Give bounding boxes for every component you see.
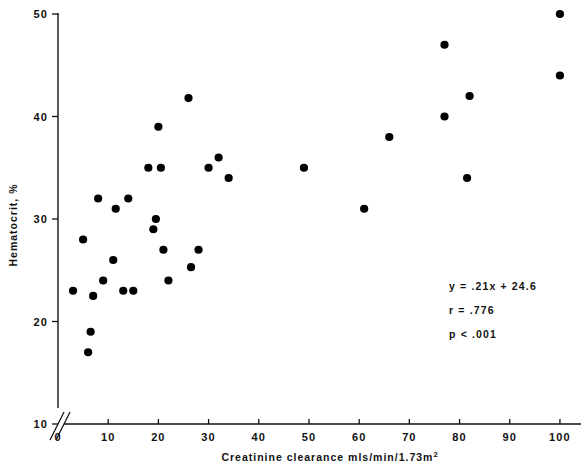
data-point xyxy=(129,287,137,295)
data-point xyxy=(112,205,120,213)
x-axis-title-main: Creatinine clearance mls/min/1.73m xyxy=(221,451,433,463)
y-tick-label: 20 xyxy=(34,316,48,328)
data-point xyxy=(94,194,102,202)
x-tick-group: 0102030405060708090100 xyxy=(54,419,570,443)
x-axis-title: Creatinine clearance mls/min/1.73m2 xyxy=(221,450,438,463)
x-tick-label: 80 xyxy=(452,431,466,443)
x-tick-label: 10 xyxy=(101,431,115,443)
data-point xyxy=(204,164,212,172)
annotation-equation: y = .21x + 24.6 xyxy=(449,280,537,292)
data-point xyxy=(556,10,564,18)
data-point xyxy=(124,194,132,202)
data-point xyxy=(164,276,172,284)
data-point xyxy=(463,174,471,182)
x-tick-label: 60 xyxy=(352,431,366,443)
data-point xyxy=(154,123,162,131)
y-tick-group: 1020304050 xyxy=(34,8,58,430)
data-point xyxy=(79,235,87,243)
data-point xyxy=(149,225,157,233)
y-tick-label: 50 xyxy=(34,8,48,20)
data-point xyxy=(69,287,77,295)
data-point xyxy=(360,205,368,213)
data-point xyxy=(225,174,233,182)
axes-group xyxy=(50,13,581,440)
data-point xyxy=(184,94,192,102)
y-tick-label: 30 xyxy=(34,213,48,225)
data-point xyxy=(385,133,393,141)
y-axis-title: Hematocrit, % xyxy=(7,183,19,266)
annotation-correlation: r = .776 xyxy=(449,304,495,316)
annotation-pvalue: p < .001 xyxy=(449,328,497,340)
scatter-plot-figure: Hematocrit, % 1020304050 010203040506070… xyxy=(0,0,584,467)
data-point xyxy=(440,41,448,49)
x-tick-label: 40 xyxy=(252,431,266,443)
data-point xyxy=(84,348,92,356)
x-tick-label: 70 xyxy=(402,431,416,443)
data-point xyxy=(159,246,167,254)
data-point xyxy=(87,328,95,336)
x-tick-label: 90 xyxy=(503,431,517,443)
y-tick-label: 40 xyxy=(34,111,48,123)
data-point xyxy=(109,256,117,264)
data-point xyxy=(119,287,127,295)
data-point xyxy=(300,164,308,172)
plot-canvas: Hematocrit, % 1020304050 010203040506070… xyxy=(0,0,584,467)
x-tick-label: 0 xyxy=(54,431,61,443)
data-point xyxy=(194,246,202,254)
data-point xyxy=(157,164,165,172)
x-axis-title-superscript: 2 xyxy=(433,450,438,459)
data-point xyxy=(99,276,107,284)
data-point xyxy=(465,92,473,100)
data-point xyxy=(440,112,448,120)
y-tick-label: 10 xyxy=(34,418,48,430)
data-point xyxy=(215,153,223,161)
data-point xyxy=(152,215,160,223)
data-point xyxy=(144,164,152,172)
x-tick-label: 30 xyxy=(201,431,215,443)
x-tick-label: 20 xyxy=(151,431,165,443)
data-point xyxy=(556,71,564,79)
x-tick-label: 50 xyxy=(302,431,316,443)
data-point xyxy=(187,263,195,271)
x-tick-label: 100 xyxy=(549,431,571,443)
data-point xyxy=(89,292,97,300)
